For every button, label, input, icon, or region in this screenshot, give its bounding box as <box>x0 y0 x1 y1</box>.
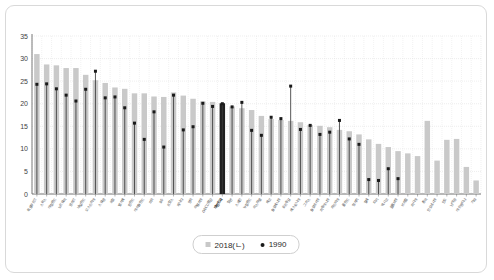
bar-2018 <box>415 156 420 194</box>
dot-1990 <box>172 94 175 97</box>
x-axis-tick-label: 슬로베니아 <box>270 196 283 212</box>
x-axis-tick-label: 호주 <box>157 196 165 205</box>
x-axis-tick-label: 벨기에 <box>117 197 126 207</box>
x-axis-tick-label: 그리스 <box>302 196 312 207</box>
x-axis-tick-label: 콜롬비아 <box>388 196 399 210</box>
dot-1990 <box>201 102 204 105</box>
dot-1990 <box>74 100 77 103</box>
x-axis-tick-label: 체코 <box>265 196 273 205</box>
x-axis-tick-label: 스페인 <box>234 197 243 207</box>
x-axis-tick-label: 기타 <box>470 196 478 205</box>
dot-1990 <box>123 106 126 109</box>
x-axis-tick-label: 중국 <box>422 197 429 205</box>
dot-1990 <box>94 70 97 73</box>
x-axis-tick-label: 리투아니아 <box>318 196 331 212</box>
dot-1990 <box>289 85 292 88</box>
x-axis-tick-label: 칠레 <box>362 197 369 205</box>
grouped-bar-dot-chart: 05101520253035룩셈부르크스위스아일랜드노르웨이덴마크네덜란드오스트… <box>6 6 488 274</box>
x-axis-tick-label: 덴마크 <box>68 196 78 207</box>
legend-label-1990: 1990 <box>269 240 287 249</box>
chart-legend: 2018(ㄴ) 1990 <box>193 235 300 254</box>
x-axis-tick-label: 영국 <box>186 196 194 205</box>
dot-1990 <box>182 128 185 131</box>
x-axis-tick-label: 일본 <box>226 196 234 205</box>
dot-1990 <box>133 122 136 125</box>
dot-1990 <box>65 94 68 97</box>
bar-2018 <box>444 140 449 194</box>
dot-1990 <box>328 131 331 134</box>
dot-1990 <box>104 96 107 99</box>
dot-1990 <box>397 177 400 180</box>
dot-marker-icon <box>261 243 265 247</box>
y-axis-tick-label: 25 <box>20 78 28 85</box>
x-axis-tick-label: 브라질 <box>400 197 409 207</box>
chart-plot-area: 05101520253035룩셈부르크스위스아일랜드노르웨이덴마크네덜란드오스트… <box>6 6 488 274</box>
dot-1990 <box>153 110 156 113</box>
x-axis-tick-label: 프랑스 <box>165 196 175 207</box>
dot-1990 <box>35 83 38 86</box>
legend-label-2018: 2018(ㄴ) <box>215 239 245 250</box>
x-axis-tick-label: 대한민국 <box>213 196 224 210</box>
dot-1990 <box>143 138 146 141</box>
x-axis-tick-label: 이스라엘 <box>252 196 263 210</box>
dot-1990 <box>192 125 195 128</box>
y-axis-tick-label: 0 <box>24 191 28 198</box>
dot-1990 <box>357 143 360 146</box>
dot-1990 <box>231 105 234 108</box>
x-axis-tick-label: 폴란드 <box>341 196 351 207</box>
y-axis-tick-label: 30 <box>20 55 28 62</box>
x-axis-tick-label: 인도네시아 <box>426 196 439 212</box>
dot-1990 <box>309 124 312 127</box>
legend-item-2018: 2018(ㄴ) <box>206 239 245 250</box>
x-axis-tick-label: 스위스 <box>38 196 48 207</box>
dot-1990 <box>113 95 116 98</box>
bar-swatch-icon <box>206 242 211 247</box>
bar-2018 <box>425 121 430 194</box>
dot-1990 <box>279 117 282 120</box>
x-axis-tick-label: 아이슬란드 <box>133 196 146 212</box>
x-axis-tick-label: 남아공 <box>448 196 458 207</box>
x-axis-tick-label: 라트비아 <box>330 196 341 210</box>
y-axis-tick-label: 20 <box>20 100 28 107</box>
dot-1990 <box>250 129 253 132</box>
bar-2018 <box>434 161 439 194</box>
x-axis-tick-label: 룩셈부르크 <box>26 196 39 212</box>
x-axis-tick-label: OECD평균 <box>200 196 213 213</box>
dot-1990 <box>348 137 351 140</box>
dot-1990 <box>338 119 341 122</box>
dot-1990 <box>221 102 224 105</box>
x-axis-tick-label: 아르헨티나 <box>455 196 468 212</box>
x-axis-tick-label: 미국 <box>147 196 155 205</box>
y-axis-tick-label: 35 <box>20 33 28 40</box>
dot-1990 <box>45 82 48 85</box>
y-axis-tick-label: 5 <box>24 168 28 175</box>
chart-card: 05101520253035룩셈부르크스위스아일랜드노르웨이덴마크네덜란드오스트… <box>5 5 487 273</box>
dot-1990 <box>260 134 263 137</box>
dot-1990 <box>211 105 214 108</box>
bar-2018 <box>473 180 478 194</box>
x-axis-tick-label: 러시아 <box>409 196 419 207</box>
y-axis-tick-label: 15 <box>20 123 28 130</box>
legend-item-1990: 1990 <box>261 240 287 249</box>
dot-1990 <box>387 167 390 170</box>
dot-1990 <box>270 116 273 119</box>
x-axis-tick-label: 스웨덴 <box>97 196 107 207</box>
dot-1990 <box>367 178 370 181</box>
dot-1990 <box>55 87 58 90</box>
dot-1990 <box>240 101 243 104</box>
dot-1990 <box>377 179 380 182</box>
x-axis-tick-label: 멕시코 <box>380 196 390 207</box>
dot-1990 <box>318 133 321 136</box>
x-axis-tick-label: 핀란드 <box>126 196 136 207</box>
x-axis-tick-label: 독일 <box>108 197 115 205</box>
x-axis-tick-label: 인도 <box>440 196 448 205</box>
bar-2018 <box>454 139 459 194</box>
dot-1990 <box>299 128 302 131</box>
y-axis-tick-label: 10 <box>20 145 28 152</box>
x-axis-tick-label: 헝가리 <box>351 197 360 207</box>
x-axis-tick-label: 노르웨이 <box>56 197 67 210</box>
bar-2018 <box>405 153 410 194</box>
bar-2018 <box>464 167 469 194</box>
x-axis-tick-label: 터키 <box>372 197 379 205</box>
dot-1990 <box>84 88 87 91</box>
